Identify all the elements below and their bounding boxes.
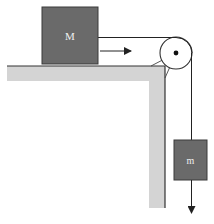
block-M: M [42,7,98,64]
table [7,66,165,208]
block-m: m [174,140,207,180]
block-M-label: M [65,30,75,42]
pulley-diagram: M m [0,0,214,224]
block-m-label: m [187,155,195,166]
